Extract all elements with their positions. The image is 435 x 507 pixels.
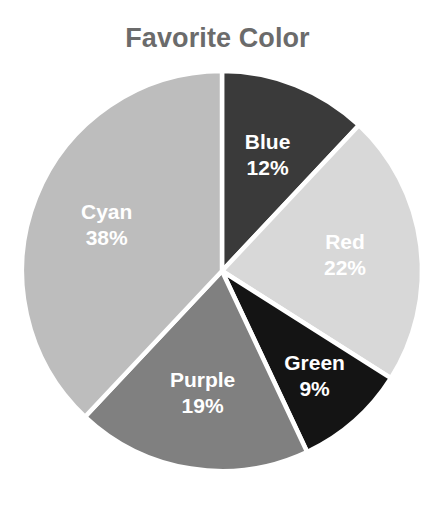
slice-label-name-purple: Purple [170, 368, 235, 391]
slice-label-pct-purple: 19% [182, 394, 224, 417]
slice-label-name-blue: Blue [245, 130, 291, 153]
pie-chart-figure: Favorite Color Blue12%Red22%Green9%Purpl… [0, 0, 435, 507]
slice-label-name-cyan: Cyan [81, 200, 132, 223]
slice-label-name-red: Red [325, 230, 365, 253]
slice-label-pct-cyan: 38% [86, 226, 128, 249]
slice-label-pct-blue: 12% [247, 156, 289, 179]
slice-label-pct-green: 9% [299, 377, 330, 400]
slice-label-name-green: Green [284, 351, 345, 374]
pie-chart-canvas: Blue12%Red22%Green9%Purple19%Cyan38% [0, 0, 435, 507]
slice-label-pct-red: 22% [324, 256, 366, 279]
